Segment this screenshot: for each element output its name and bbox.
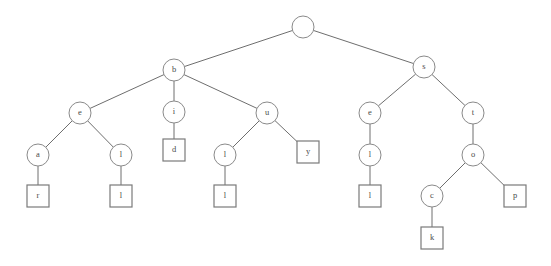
node-circle-i [163,101,185,123]
tree-node-l2[interactable]: l [214,144,236,166]
tree-node-u[interactable]: u [256,102,278,124]
tree-edge-o-c [440,163,465,188]
tree-node-l3[interactable]: l [359,144,381,166]
tree-edge-e1-a [46,121,72,147]
node-square-p_sq [504,185,526,207]
tree-node-root[interactable] [292,16,314,38]
tree-node-b[interactable]: b [163,59,185,81]
tree-node-p_sq[interactable]: p [504,185,526,207]
tree-edge-e1-l1 [88,121,114,147]
tree-node-l3_sq[interactable]: l [359,185,381,207]
tree-edge-s-e2 [378,74,415,106]
tree-edge-root-b [184,30,292,66]
node-circle-t [462,102,484,124]
node-circle-u [256,102,278,124]
node-square-l2_sq [214,185,236,207]
tree-edge-o-p_sq [481,163,504,186]
node-square-r_sq [27,185,49,207]
node-layer: bseiuetalllocdyprlllk [27,16,526,249]
node-circle-e1 [69,102,91,124]
tree-edge-s-t [432,75,465,106]
node-square-l3_sq [359,185,381,207]
node-circle-e2 [359,102,381,124]
tree-node-e2[interactable]: e [359,102,381,124]
node-square-d_sq [163,139,185,161]
tree-node-l2_sq[interactable]: l [214,185,236,207]
tree-node-s[interactable]: s [413,56,435,78]
node-circle-l1 [110,144,132,166]
tree-node-k_sq[interactable]: k [421,227,443,249]
tree-node-o[interactable]: o [462,144,484,166]
tree-node-r_sq[interactable]: r [27,185,49,207]
tree-node-t[interactable]: t [462,102,484,124]
node-square-k_sq [421,227,443,249]
node-circle-a [27,144,49,166]
tree-diagram: bseiuetalllocdyprlllk [0,0,551,266]
tree-edge-u-l2 [233,121,259,147]
tree-node-y_sq[interactable]: y [297,141,319,163]
node-circle-c [421,185,443,207]
tree-node-l1[interactable]: l [110,144,132,166]
tree-edge-u-y_sq [275,121,297,142]
node-circle-b [163,59,185,81]
node-circle-l2 [214,144,236,166]
node-circle-root [292,16,314,38]
tree-edge-root-s [313,30,413,63]
tree-node-a[interactable]: a [27,144,49,166]
node-square-l1_sq [110,185,132,207]
node-circle-l3 [359,144,381,166]
tree-node-i[interactable]: i [163,101,185,123]
tree-node-c[interactable]: c [421,185,443,207]
tree-edge-b-e1 [90,75,164,109]
node-circle-s [413,56,435,78]
tree-edge-b-u [184,75,257,109]
node-circle-o [462,144,484,166]
tree-node-l1_sq[interactable]: l [110,185,132,207]
tree-node-d_sq[interactable]: d [163,139,185,161]
tree-node-e1[interactable]: e [69,102,91,124]
node-square-y_sq [297,141,319,163]
